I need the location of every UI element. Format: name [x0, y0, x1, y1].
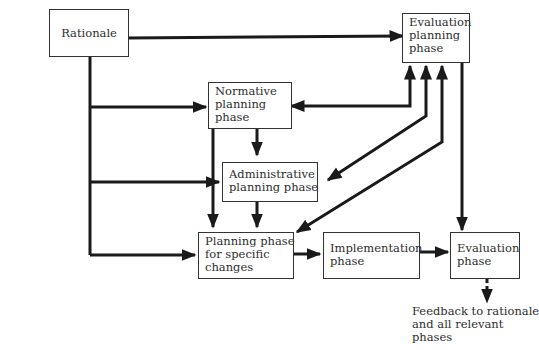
node-rationale: Rationale [49, 9, 129, 57]
node-rationale-line-1: Rationale [61, 27, 117, 40]
edge-normative-eval-planning [291, 66, 410, 106]
feedback-note-line-3: phases [412, 331, 539, 344]
node-evaluation-planning-line-3: phase [409, 42, 463, 55]
node-normative-planning-phase: Normative planning phase [208, 82, 292, 129]
node-administrative-planning-phase: Administrative planning phase [222, 162, 318, 202]
feedback-note: Feedback to rationale and all relevant p… [412, 305, 539, 344]
edge-planning-specific-eval-planning [297, 66, 442, 232]
node-evaluation-phase: Evaluation phase [450, 232, 520, 279]
node-administrative-line-2: planning phase [229, 181, 311, 194]
node-normative-line-3: phase [215, 111, 285, 124]
node-planning-phase-specific-changes: Planning phase for specific changes [198, 232, 294, 279]
node-planning-specific-line-3: changes [205, 261, 287, 274]
edge-rationale-to-eval-planning [128, 36, 403, 38]
node-evaluation-planning-phase: Evaluation planning phase [402, 13, 470, 63]
node-implementation-line-2: phase [330, 255, 413, 268]
node-implementation-phase: Implementation phase [323, 232, 420, 279]
node-evaluation-line-2: phase [457, 255, 513, 268]
